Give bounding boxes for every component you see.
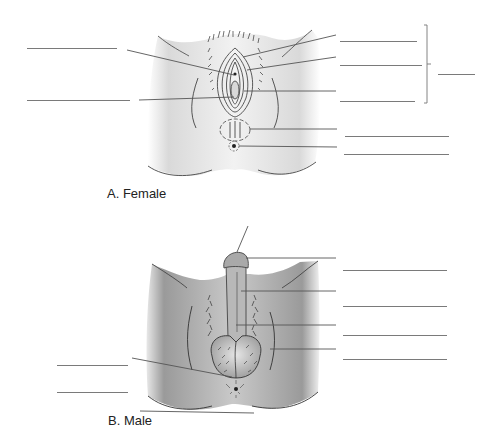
male-blank-right-1[interactable] bbox=[343, 270, 447, 271]
female-blank-right-1[interactable] bbox=[340, 41, 417, 42]
female-blank-right-5[interactable] bbox=[344, 154, 449, 155]
female-blank-right-2[interactable] bbox=[340, 65, 422, 66]
male-blank-left-2[interactable] bbox=[57, 392, 128, 393]
male-blank-right-4[interactable] bbox=[343, 359, 447, 360]
female-blank-right-3[interactable] bbox=[340, 101, 415, 102]
male-illustration bbox=[132, 226, 336, 413]
female-blank-left-1[interactable] bbox=[27, 48, 117, 49]
male-blank-left-1[interactable] bbox=[57, 365, 128, 366]
female-blank-right-4[interactable] bbox=[345, 136, 449, 137]
caption-female: A. Female bbox=[107, 186, 166, 201]
female-blank-bracket[interactable] bbox=[438, 74, 475, 75]
male-blank-right-3[interactable] bbox=[343, 335, 447, 336]
female-blank-left-2[interactable] bbox=[27, 100, 130, 101]
male-blank-right-2[interactable] bbox=[343, 306, 447, 307]
caption-male: B. Male bbox=[108, 413, 152, 428]
